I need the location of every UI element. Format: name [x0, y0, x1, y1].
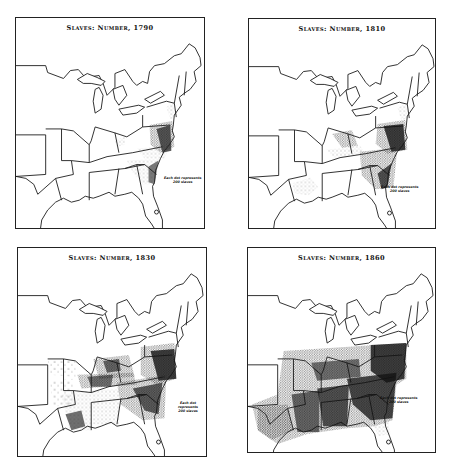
us-map-1860: [248, 248, 435, 452]
map-legend: Each dot represents 200 slaves: [381, 185, 418, 193]
us-map-1790: [16, 18, 204, 228]
us-map-1810: [249, 19, 435, 228]
dot-density-layer: [252, 343, 406, 444]
dot-density-layer: [293, 102, 410, 195]
map-title: Slaves: Number, 1790: [16, 24, 204, 32]
map-title: Slaves: Number, 1860: [248, 254, 435, 262]
map-title: Slaves: Number, 1830: [18, 254, 206, 262]
map-panel-1860: Slaves: Number, 1860 Each dot represents…: [247, 247, 436, 453]
map-legend: Each dot represents 200 slaves: [380, 396, 417, 404]
map-panel-1810: Slaves: Number, 1810 Each dot represents…: [248, 18, 436, 229]
map-panel-1790: Slaves: Number, 1790 Each dot represents…: [15, 17, 205, 229]
us-map-1830: [18, 248, 206, 456]
map-title: Slaves: Number, 1810: [249, 25, 435, 33]
map-legend: Each dot represents 200 slaves: [170, 401, 206, 414]
map-panel-1830: Slaves: Number, 1830 Each dot represents…: [17, 247, 207, 457]
dot-density-layer: [48, 343, 177, 430]
map-legend: Each dot represents 200 slaves: [164, 176, 201, 184]
